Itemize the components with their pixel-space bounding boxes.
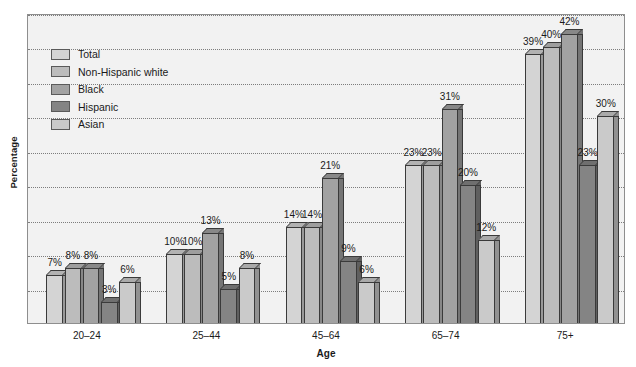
bar-front-face bbox=[460, 185, 477, 323]
bar-front-face bbox=[119, 282, 136, 323]
bar-side-face bbox=[614, 116, 619, 323]
x-tick-label: 25–44 bbox=[192, 330, 220, 341]
bar-front-face bbox=[322, 178, 339, 323]
bar-side-face bbox=[495, 240, 500, 323]
bar-front-face bbox=[579, 165, 596, 323]
bar: 3% bbox=[101, 297, 118, 323]
bar-front-face bbox=[304, 227, 321, 323]
legend-item-asian: Asian bbox=[51, 117, 168, 131]
bar-front-face bbox=[597, 116, 614, 323]
bar: 5% bbox=[220, 284, 237, 323]
bar-front-face bbox=[202, 233, 219, 323]
x-axis-tick-labels: 20–2425–4445–6465–7475+ bbox=[27, 330, 625, 344]
bar-value-label: 10% bbox=[164, 236, 184, 247]
legend-item-label: Non-Hispanic white bbox=[78, 66, 168, 78]
legend-item-label: Total bbox=[78, 48, 100, 60]
bar-front-face bbox=[65, 268, 82, 323]
bar-value-label: 9% bbox=[341, 243, 355, 254]
bar-value-label: 8% bbox=[240, 250, 254, 261]
bar-value-label: 31% bbox=[440, 91, 460, 102]
x-axis-title: Age bbox=[27, 348, 625, 359]
bar-value-label: 7% bbox=[47, 257, 61, 268]
bar: 7% bbox=[46, 270, 63, 323]
bar: 6% bbox=[358, 277, 375, 323]
legend-item-label: Black bbox=[78, 83, 104, 95]
bar: 40% bbox=[543, 42, 560, 323]
bar-front-face bbox=[442, 109, 459, 323]
bar-value-label: 5% bbox=[222, 271, 236, 282]
x-tick-label: 65–74 bbox=[432, 330, 460, 341]
bar-chart: Percentage 7%8%8%3%6%10%10%13%5%8%14%14%… bbox=[0, 0, 636, 367]
bar: 10% bbox=[184, 249, 201, 323]
legend-item-black: Black bbox=[51, 82, 168, 96]
bar-value-label: 12% bbox=[476, 222, 496, 233]
bar: 8% bbox=[65, 263, 82, 323]
bar-value-label: 8% bbox=[66, 250, 80, 261]
bar-front-face bbox=[101, 302, 118, 323]
bar-value-label: 6% bbox=[120, 264, 134, 275]
bar-value-label: 30% bbox=[596, 98, 616, 109]
bar: 6% bbox=[119, 277, 136, 323]
bar: 42% bbox=[561, 29, 578, 323]
bar-value-label: 23% bbox=[422, 147, 442, 158]
bar-value-label: 3% bbox=[102, 284, 116, 295]
x-tick-label: 75+ bbox=[557, 330, 574, 341]
bar: 23% bbox=[423, 160, 440, 323]
bar-value-label: 14% bbox=[302, 209, 322, 220]
bar: 12% bbox=[478, 235, 495, 323]
bar: 23% bbox=[579, 160, 596, 323]
bar-side-face bbox=[375, 282, 380, 323]
bar-front-face bbox=[543, 47, 560, 323]
legend-item-hispanic: Hispanic bbox=[51, 100, 168, 114]
bar-value-label: 39% bbox=[523, 36, 543, 47]
bar: 14% bbox=[304, 222, 321, 323]
bar: 10% bbox=[166, 249, 183, 323]
bar-value-label: 20% bbox=[458, 167, 478, 178]
bar-value-label: 6% bbox=[359, 264, 373, 275]
bar-group: 23%23%31%20%12% bbox=[387, 15, 507, 323]
bar-front-face bbox=[340, 261, 357, 323]
bar-front-face bbox=[561, 34, 578, 323]
bar-front-face bbox=[525, 54, 542, 323]
legend-item-non-hispanic-white: Non-Hispanic white bbox=[51, 65, 168, 79]
bar-front-face bbox=[166, 254, 183, 323]
bar-front-face bbox=[478, 240, 495, 323]
bar-side-face bbox=[136, 282, 141, 323]
legend-item-label: Asian bbox=[78, 118, 104, 130]
bar: 13% bbox=[202, 228, 219, 323]
bar-value-label: 42% bbox=[559, 16, 579, 27]
bar-front-face bbox=[239, 268, 256, 323]
y-axis-title-text: Percentage bbox=[8, 136, 19, 188]
bar: 30% bbox=[597, 111, 614, 323]
bar-value-label: 21% bbox=[320, 160, 340, 171]
bar: 8% bbox=[83, 263, 100, 323]
bar-front-face bbox=[184, 254, 201, 323]
bar-value-label: 23% bbox=[403, 147, 423, 158]
legend-item-label: Hispanic bbox=[78, 101, 118, 113]
bar: 39% bbox=[525, 49, 542, 323]
x-tick-label: 20–24 bbox=[73, 330, 101, 341]
bar-group: 39%40%42%23%30% bbox=[506, 15, 625, 323]
bar: 23% bbox=[405, 160, 422, 323]
bar-front-face bbox=[220, 289, 237, 323]
y-axis-title: Percentage bbox=[0, 0, 26, 324]
bar: 14% bbox=[286, 222, 303, 323]
bar: 31% bbox=[442, 104, 459, 323]
bar: 9% bbox=[340, 256, 357, 323]
x-tick-label: 45–64 bbox=[312, 330, 340, 341]
bar-front-face bbox=[358, 282, 375, 323]
bar-front-face bbox=[405, 165, 422, 323]
bar-value-label: 23% bbox=[578, 147, 598, 158]
bar-front-face bbox=[286, 227, 303, 323]
legend-item-total: Total bbox=[51, 47, 168, 61]
legend-swatch-icon bbox=[51, 84, 70, 95]
legend-swatch-icon bbox=[51, 66, 70, 77]
bar: 20% bbox=[460, 180, 477, 323]
bar-group: 14%14%21%9%6% bbox=[267, 15, 387, 323]
bar-value-label: 13% bbox=[201, 215, 221, 226]
bar-side-face bbox=[255, 268, 260, 323]
bar: 21% bbox=[322, 173, 339, 323]
bar-value-label: 14% bbox=[284, 209, 304, 220]
bar: 8% bbox=[239, 263, 256, 323]
chart-legend: TotalNon-Hispanic whiteBlackHispanicAsia… bbox=[51, 47, 168, 131]
